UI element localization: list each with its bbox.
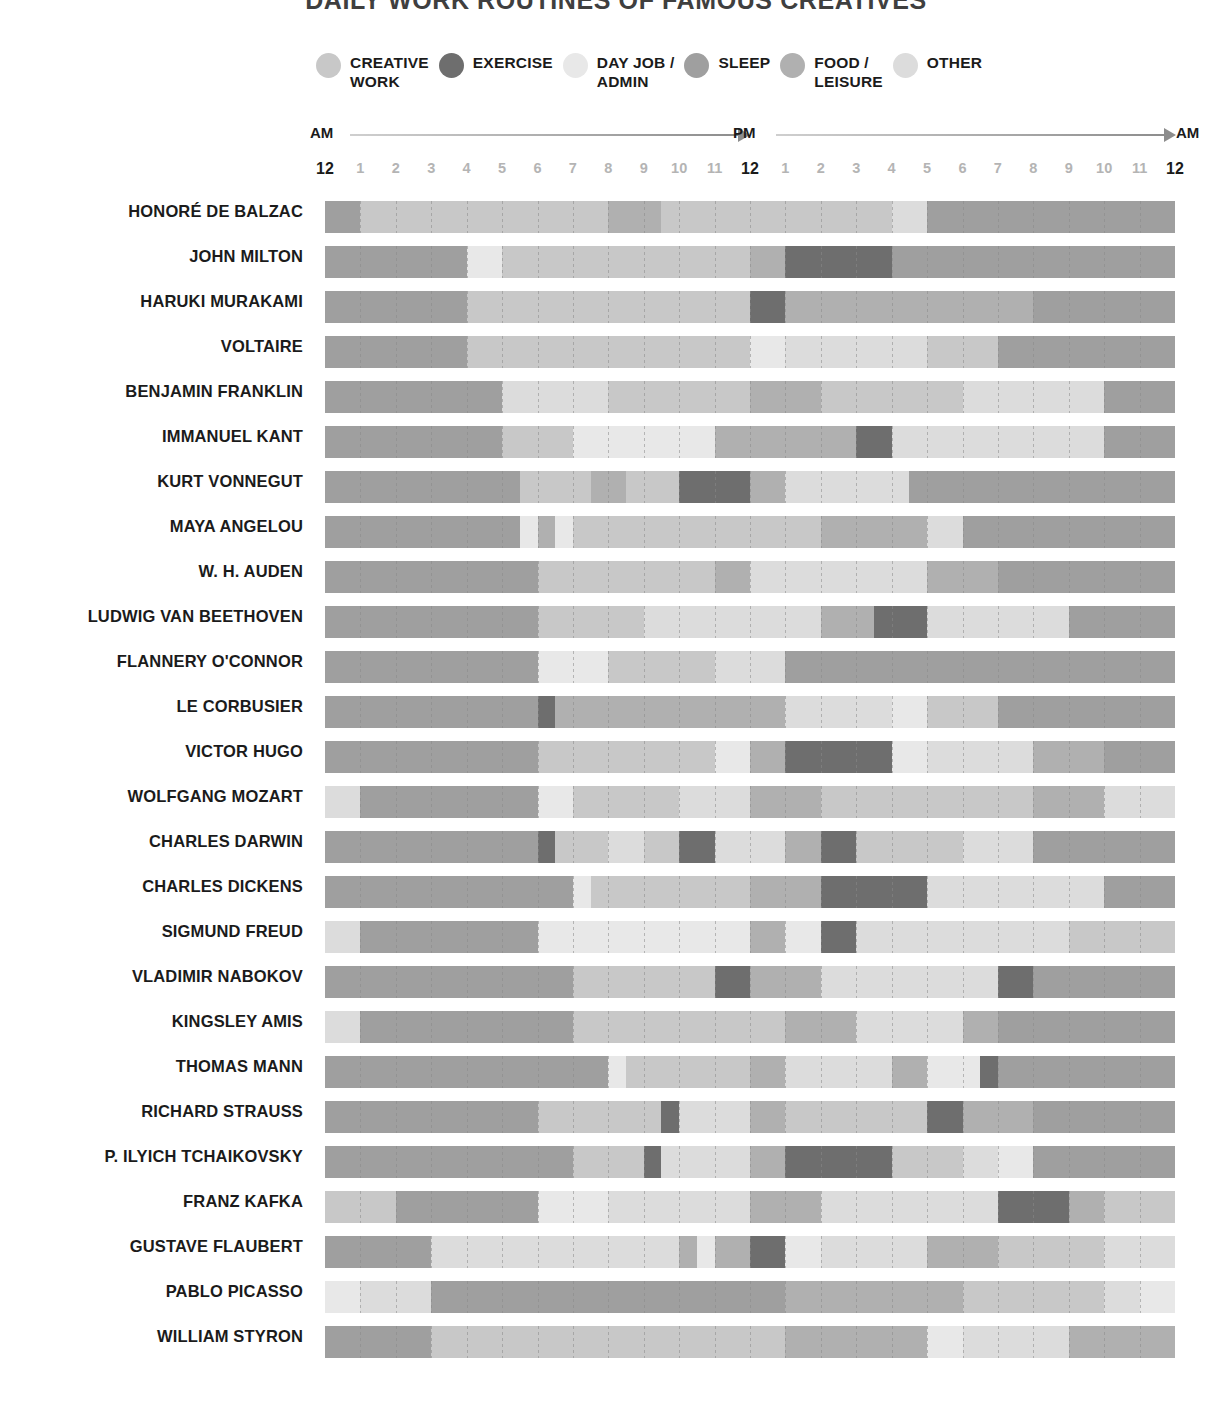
segment-other	[325, 786, 361, 818]
segment-sleep	[325, 1236, 432, 1268]
segment-creative	[608, 381, 750, 413]
legend-swatch-exercise-icon	[439, 53, 464, 78]
segment-food	[750, 876, 821, 908]
routine-bar	[325, 1281, 1175, 1313]
segment-sleep	[325, 1146, 574, 1178]
segment-sleep	[360, 1011, 573, 1043]
segment-food	[750, 381, 821, 413]
segment-dayjob	[785, 921, 821, 953]
segment-food	[1069, 1191, 1105, 1223]
segment-sleep	[325, 651, 538, 683]
segment-dayjob	[1140, 1281, 1175, 1313]
row-label-person: KINGSLEY AMIS	[0, 1012, 303, 1031]
segment-other	[715, 651, 786, 683]
segment-exercise	[538, 831, 556, 863]
page-title: DAILY WORK ROUTINES OF FAMOUS CREATIVES	[0, 0, 1232, 15]
segment-dayjob	[555, 516, 573, 548]
segment-dayjob	[998, 1146, 1034, 1178]
row-label-person: WILLIAM STYRON	[0, 1327, 303, 1346]
segment-other	[927, 606, 1069, 638]
segment-sleep	[325, 606, 538, 638]
segment-other	[856, 921, 1069, 953]
segment-other	[927, 741, 1034, 773]
segment-creative	[785, 1101, 927, 1133]
routine-bar	[325, 1056, 1175, 1088]
routine-bar	[325, 1011, 1175, 1043]
segment-creative	[520, 471, 591, 503]
segment-other	[856, 1011, 963, 1043]
segment-exercise	[785, 1146, 892, 1178]
row-label-person: FLANNERY O'CONNOR	[0, 652, 303, 671]
chart-row: VICTOR HUGO	[0, 736, 1232, 781]
segment-sleep	[325, 831, 538, 863]
legend-swatch-creative-icon	[316, 53, 341, 78]
segment-sleep	[927, 201, 1175, 233]
segment-dayjob	[538, 786, 574, 818]
chart-row: HONORÉ DE BALZAC	[0, 196, 1232, 241]
segment-sleep	[325, 381, 503, 413]
row-label-person: BENJAMIN FRANKLIN	[0, 382, 303, 401]
chart-row: BENJAMIN FRANKLIN	[0, 376, 1232, 421]
segment-other	[431, 1236, 680, 1268]
chart-row: IMMANUEL KANT	[0, 421, 1232, 466]
segment-other	[821, 1191, 999, 1223]
segment-sleep	[325, 696, 538, 728]
segment-exercise	[785, 741, 892, 773]
row-label-person: IMMANUEL KANT	[0, 427, 303, 446]
segment-exercise	[821, 876, 928, 908]
segment-sleep	[325, 966, 574, 998]
axis-label-pm: PM	[733, 124, 756, 141]
row-label-person: KURT VONNEGUT	[0, 472, 303, 491]
segment-sleep	[325, 741, 538, 773]
segment-exercise	[998, 966, 1034, 998]
legend-label-other: OTHER	[927, 52, 982, 72]
segment-creative	[1104, 1191, 1175, 1223]
routine-bar	[325, 516, 1175, 548]
segment-food	[750, 1146, 786, 1178]
segment-creative	[608, 651, 715, 683]
segment-food	[715, 426, 857, 458]
segment-other	[750, 561, 928, 593]
routine-bar	[325, 471, 1175, 503]
legend-item-dayjob: DAY JOB / ADMIN	[563, 52, 675, 91]
segment-other	[325, 921, 361, 953]
segment-dayjob	[538, 1191, 609, 1223]
segment-sleep	[325, 201, 361, 233]
legend-label-food: FOOD / LEISURE	[814, 52, 883, 91]
segment-creative	[467, 291, 751, 323]
routine-bar	[325, 831, 1175, 863]
chart-row: MAYA ANGELOU	[0, 511, 1232, 556]
segment-creative	[998, 1236, 1105, 1268]
row-label-person: LUDWIG VAN BEETHOVEN	[0, 607, 303, 626]
chart-row: LUDWIG VAN BEETHOVEN	[0, 601, 1232, 646]
segment-exercise	[980, 1056, 998, 1088]
row-label-person: HONORÉ DE BALZAC	[0, 202, 303, 221]
legend-swatch-other-icon	[893, 53, 918, 78]
segment-sleep	[1033, 831, 1175, 863]
segment-creative	[892, 1146, 963, 1178]
segment-dayjob	[467, 246, 503, 278]
legend-label-sleep: SLEEP	[718, 52, 770, 72]
hour-tick-24: 12	[1158, 160, 1192, 178]
routine-bar	[325, 1146, 1175, 1178]
segment-food	[750, 741, 786, 773]
hour-tick-10: 10	[662, 160, 696, 176]
segment-exercise	[856, 426, 892, 458]
segment-food	[785, 1011, 856, 1043]
segment-dayjob	[520, 516, 538, 548]
segment-other	[325, 1011, 361, 1043]
segment-creative	[1069, 921, 1175, 953]
segment-other	[608, 1191, 750, 1223]
legend-swatch-food-icon	[780, 53, 805, 78]
segment-creative	[538, 1101, 663, 1133]
hour-tick-1: 1	[343, 160, 377, 176]
segment-dayjob	[892, 741, 928, 773]
segment-other	[927, 516, 963, 548]
routine-chart: HONORÉ DE BALZACJOHN MILTONHARUKI MURAKA…	[0, 196, 1232, 1366]
hour-tick-14: 2	[804, 160, 838, 176]
axis-arrow-head-evening-icon	[1164, 128, 1176, 142]
hour-tick-17: 5	[910, 160, 944, 176]
segment-food	[750, 966, 821, 998]
legend-label-dayjob: DAY JOB / ADMIN	[597, 52, 675, 91]
hour-tick-2: 2	[379, 160, 413, 176]
